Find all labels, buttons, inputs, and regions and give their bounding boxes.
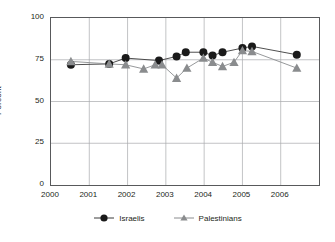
- x-tick-2000: 2000: [33, 190, 67, 199]
- series-markers: [66, 42, 301, 82]
- y-axis-title: Percent: [0, 86, 3, 115]
- data-point-israelis-11: [293, 51, 301, 59]
- data-point-israelis-8: [219, 48, 227, 56]
- plot-area: [50, 17, 320, 186]
- data-point-palestinians-11: [229, 58, 238, 66]
- x-tick-2002: 2002: [110, 190, 144, 199]
- legend-triangle-marker-icon: [173, 213, 195, 223]
- legend-circle-marker-icon: [93, 213, 115, 223]
- legend-item-israelis: Israelis: [93, 213, 144, 223]
- plot-canvas: [51, 18, 319, 185]
- x-tick-2004: 2004: [186, 190, 220, 199]
- x-tick-2001: 2001: [71, 190, 105, 199]
- x-tick-2005: 2005: [224, 190, 258, 199]
- legend-item-palestinians: Palestinians: [173, 213, 242, 223]
- y-tick-0: 0: [22, 179, 44, 188]
- y-tick-100: 100: [22, 12, 44, 21]
- legend-label-israelis: Israelis: [119, 214, 144, 223]
- gridlines: [51, 18, 319, 185]
- data-point-palestinians-0: [66, 57, 75, 65]
- y-tick-25: 25: [22, 137, 44, 146]
- data-point-palestinians-7: [182, 64, 191, 72]
- y-tick-50: 50: [22, 96, 44, 105]
- x-tick-2006: 2006: [263, 190, 297, 199]
- data-point-palestinians-10: [218, 62, 227, 70]
- data-point-israelis-4: [173, 52, 181, 60]
- percent-line-chart: Percent 0255075100 200020012002200320042…: [0, 0, 335, 242]
- legend-label-palestinians: Palestinians: [199, 214, 242, 223]
- data-point-israelis-5: [182, 48, 190, 56]
- chart-legend: Israelis Palestinians: [0, 213, 335, 223]
- y-tick-75: 75: [22, 54, 44, 63]
- data-point-palestinians-9: [208, 58, 217, 66]
- data-point-palestinians-14: [292, 64, 301, 72]
- x-tick-2003: 2003: [148, 190, 182, 199]
- data-point-palestinians-8: [199, 53, 208, 61]
